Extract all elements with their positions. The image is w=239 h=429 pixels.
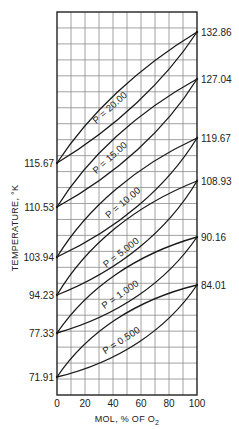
endpoint-marker (196, 31, 198, 33)
endpoint-marker (196, 137, 198, 139)
right-axis-label: 84.01 (201, 280, 226, 291)
endpoint-marker (196, 180, 198, 182)
endpoint-marker (56, 294, 58, 296)
right-axis-label: 127.04 (201, 74, 232, 85)
left-axis-labels: 115.67110.53103.9494.2377.3371.91 (23, 158, 54, 383)
left-axis-label: 103.94 (23, 252, 54, 263)
left-axis-label: 110.53 (24, 202, 54, 213)
curve-label: P = 0.500 (100, 324, 142, 356)
right-axis-label: 108.93 (201, 176, 232, 187)
endpoint-marker (196, 78, 198, 80)
endpoint-marker (56, 206, 58, 208)
right-axis-label: 119.67 (201, 133, 231, 144)
x-axis-tick-label: 60 (135, 398, 147, 409)
x-axis-tick-label: 0 (54, 398, 60, 409)
right-axis-label: 132.86 (201, 27, 232, 38)
phase-diagram-chart: P = 20.00P = 15.00P = 10.00P = 5.000P = … (0, 0, 239, 429)
left-axis-label: 77.33 (29, 328, 54, 339)
x-axis-tick-labels: 020406080100 (54, 398, 206, 409)
y-axis-title: TEMPERATURE, °K (10, 185, 20, 271)
endpoint-marker (56, 162, 58, 164)
x-axis-tick-label: 100 (189, 398, 206, 409)
x-axis-title: MOL, % OF O2 (95, 414, 160, 426)
x-axis-title-subscript: 2 (155, 419, 159, 426)
endpoint-marker (196, 236, 198, 238)
x-axis-tick-label: 40 (107, 398, 119, 409)
endpoint-marker (56, 256, 58, 258)
right-axis-label: 90.16 (201, 232, 226, 243)
curve-label: P = 10.00 (103, 184, 143, 220)
x-axis-title-main: MOL, % OF O (95, 414, 155, 424)
x-axis-tick-label: 20 (79, 398, 91, 409)
right-axis-labels: 132.86127.04119.67108.9390.1684.01 (201, 27, 232, 291)
endpoint-marker (196, 284, 198, 286)
left-axis-label: 115.67 (24, 158, 54, 169)
left-axis-label: 94.23 (29, 290, 54, 301)
endpoint-marker (56, 376, 58, 378)
x-axis-tick-label: 80 (163, 398, 175, 409)
curve-label: P = 5.000 (101, 235, 141, 270)
endpoint-marker (56, 332, 58, 334)
left-axis-label: 71.91 (29, 372, 54, 383)
